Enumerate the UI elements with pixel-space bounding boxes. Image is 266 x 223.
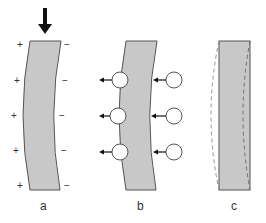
figure-canvas: + + + + + − − − − − a xyxy=(0,0,266,223)
plus-sign: + xyxy=(14,75,20,86)
plus-sign: + xyxy=(13,145,19,156)
arrow-left-icon xyxy=(99,78,112,83)
minus-sign: − xyxy=(61,145,67,156)
minus-sign: − xyxy=(64,180,70,191)
panel-label-a: a xyxy=(40,199,47,213)
particle-circle xyxy=(112,72,128,88)
particle-circle xyxy=(110,108,126,124)
panel-label-c: c xyxy=(231,199,237,213)
particle-circle xyxy=(166,144,182,160)
minus-sign: − xyxy=(59,110,65,121)
straight-plate-c xyxy=(219,41,250,190)
arrow-left-icon xyxy=(153,150,166,155)
panel-a: + + + + + − − − − − a xyxy=(11,8,70,213)
left-particles xyxy=(99,72,128,160)
minus-sign: − xyxy=(64,39,70,50)
plus-sign: + xyxy=(17,180,23,191)
plus-signs: + + + + + xyxy=(11,39,23,191)
panel-b: b xyxy=(99,41,182,213)
arrow-left-icon xyxy=(151,114,166,119)
minus-signs: − − − − − xyxy=(59,39,70,191)
arrow-left-icon xyxy=(99,114,110,119)
particle-circle xyxy=(166,108,182,124)
particle-circle xyxy=(166,72,182,88)
curved-plate-a xyxy=(23,41,61,190)
dashed-outline-left xyxy=(211,41,219,190)
particle-circle xyxy=(112,144,128,160)
plus-sign: + xyxy=(17,39,23,50)
right-particles xyxy=(151,72,182,160)
arrow-left-icon xyxy=(99,150,112,155)
arrow-left-icon xyxy=(153,78,166,83)
minus-sign: − xyxy=(62,75,68,86)
load-arrow-icon xyxy=(38,8,52,34)
panel-label-b: b xyxy=(137,199,144,213)
plus-sign: + xyxy=(11,110,17,121)
panel-c: c xyxy=(211,41,250,213)
